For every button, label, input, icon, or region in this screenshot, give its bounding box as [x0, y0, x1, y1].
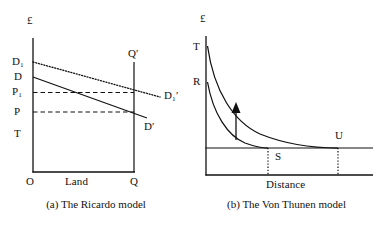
vonthunen-label-S: S	[275, 151, 281, 162]
ricardo-origin-label: O	[26, 176, 34, 187]
von-thunen-chart-svg	[190, 0, 383, 226]
vonthunen-label-T: T	[193, 41, 200, 52]
ricardo-label-D: D	[14, 71, 22, 82]
ricardo-y-axis-unit-label: £	[27, 15, 33, 26]
vonthunen-rent-curve-upper	[208, 46, 339, 148]
ricardo-label-P: P	[14, 106, 20, 117]
ricardo-x-axis-label: Land	[65, 176, 88, 187]
ricardo-demand-shifted-line	[33, 62, 160, 97]
vonthunen-label-R: R	[193, 76, 200, 87]
vonthunen-shift-arrow-icon	[232, 102, 241, 140]
ricardo-label-D1-prime: D₁′	[164, 90, 179, 101]
panel-ricardo-model: £ D₁ D P₁ P T Q′ D₁′ D′ O Land Q (a) The…	[0, 0, 192, 226]
ricardo-label-T: T	[14, 128, 21, 139]
ricardo-label-P1: P₁	[12, 86, 22, 97]
ricardo-x-end-label: Q	[130, 176, 138, 187]
vonthunen-caption: (b) The Von Thunen model	[190, 198, 383, 211]
ricardo-label-D1: D₁	[12, 56, 24, 67]
vonthunen-y-axis-unit-label: £	[200, 13, 206, 24]
vonthunen-rent-curve-lower	[208, 82, 269, 148]
ricardo-label-Q-prime: Q′	[128, 48, 139, 59]
vonthunen-label-U: U	[335, 130, 343, 141]
panel-von-thunen-model: £ T R S U Distance (b) The Von Thunen mo…	[190, 0, 383, 226]
ricardo-chart-svg	[0, 0, 192, 226]
figure-root: £ D₁ D P₁ P T Q′ D₁′ D′ O Land Q (a) The…	[0, 0, 383, 226]
ricardo-caption: (a) The Ricardo model	[0, 198, 192, 211]
vonthunen-x-axis-label: Distance	[266, 179, 305, 190]
ricardo-label-D-prime: D′	[144, 121, 155, 132]
